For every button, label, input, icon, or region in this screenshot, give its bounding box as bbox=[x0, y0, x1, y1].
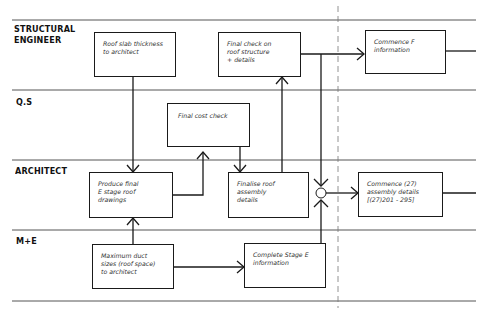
box-text: Commence F information bbox=[374, 38, 441, 54]
box-commence-f-information: Commence F information bbox=[365, 30, 446, 74]
box-commence-27-assembly: Commence (27) assembly details [(27)201 … bbox=[358, 172, 443, 217]
lane-label-architect: ARCHITECT bbox=[15, 165, 67, 176]
box-complete-stage-e: Complete Stage E information bbox=[244, 243, 326, 288]
box-text: Complete Stage E information bbox=[253, 251, 321, 267]
box-finalise-roof-assembly: Finalise roof assembly details bbox=[228, 172, 309, 218]
lane-label-qs: Q.S bbox=[16, 96, 32, 107]
box-roof-slab-thickness: Roof slab thickness to architect bbox=[94, 32, 176, 77]
box-text: Commence (27) assembly details [(27)201 … bbox=[367, 180, 438, 204]
lane-label-line: M+E bbox=[16, 235, 37, 246]
lane-label-m-and-e: M+E bbox=[16, 235, 37, 246]
lane-label-structural-engineer: STRUCTURAL ENGINEER bbox=[14, 23, 75, 45]
box-text: Final cost check bbox=[178, 112, 245, 120]
lane-label-line: Q.S bbox=[16, 96, 32, 107]
box-text: Produce final E stage roof drawings bbox=[98, 180, 168, 204]
box-final-cost-check: Final cost check bbox=[167, 103, 250, 147]
box-produce-final-e-stage: Produce final E stage roof drawings bbox=[89, 172, 173, 218]
box-text: Roof slab thickness to architect bbox=[103, 40, 171, 56]
lane-label-line: ENGINEER bbox=[14, 34, 75, 45]
box-maximum-duct-sizes: Maximum duct sizes (roof space) to archi… bbox=[92, 244, 174, 289]
box-text: Finalise roof assembly details bbox=[237, 180, 304, 204]
lane-label-line: STRUCTURAL bbox=[14, 23, 75, 34]
box-final-check-roof-structure: Final check on roof structure + details bbox=[218, 32, 301, 77]
lane-label-line: ARCHITECT bbox=[15, 165, 67, 176]
box-text: Maximum duct sizes (roof space) to archi… bbox=[101, 252, 169, 276]
junction-node bbox=[316, 188, 326, 198]
box-text: Final check on roof structure + details bbox=[227, 40, 296, 64]
